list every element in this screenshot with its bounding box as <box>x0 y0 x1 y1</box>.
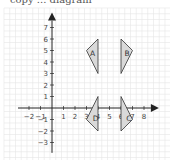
y-tick-label: 1 <box>44 93 48 101</box>
triangle-label-b: B <box>124 49 129 58</box>
triangle-label-a: A <box>90 49 96 58</box>
triangle-label-c: C <box>126 114 131 123</box>
y-tick-label: 2 <box>44 82 48 90</box>
y-tick-label: −1 <box>38 116 48 124</box>
x-tick-label: 8 <box>142 113 146 121</box>
y-tick-label: 5 <box>44 47 48 55</box>
x-axis-arrow-icon <box>151 104 159 112</box>
y-tick-label: 7 <box>44 24 48 32</box>
grid-lines <box>4 8 170 160</box>
x-tick-label: −2 <box>24 113 34 121</box>
y-tick-label: −3 <box>38 139 48 147</box>
y-tick-label: 6 <box>44 36 49 44</box>
y-tick-label: 3 <box>44 70 48 78</box>
x-tick-label: 5 <box>107 113 111 121</box>
x-tick-label: 2 <box>73 113 77 121</box>
triangle-label-d: D <box>93 114 99 123</box>
y-tick-label: −2 <box>38 128 48 136</box>
y-tick-label: 4 <box>44 59 49 67</box>
coordinate-grid-diagram: −2−112345678−3−2−11234567 ABDC <box>0 0 175 163</box>
x-tick-label: 1 <box>61 113 65 121</box>
